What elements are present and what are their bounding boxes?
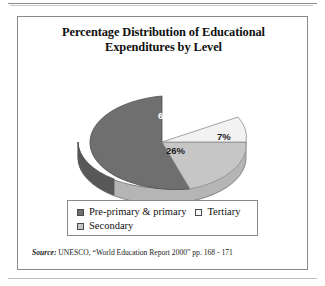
- pie-chart-svg: [18, 69, 307, 201]
- legend-item-secondary[interactable]: Secondary: [77, 220, 133, 232]
- pie-label-pre-primary-primary: 63%: [158, 110, 177, 121]
- legend-label-pre-primary-primary: Pre-primary & primary: [89, 206, 186, 218]
- source-note-text: UNESCO, “World Education Report 2000” pp…: [56, 248, 232, 257]
- pie-label-tertiary: 7%: [217, 131, 231, 142]
- page-bottom-rule: [8, 278, 317, 279]
- chart-title: Percentage Distribution of Educational E…: [28, 25, 299, 55]
- source-note: Source: UNESCO, “World Education Report …: [32, 248, 233, 257]
- legend-row: Secondary: [77, 219, 253, 233]
- chart-legend: Pre-primary & primary Tertiary Secondary: [67, 200, 258, 236]
- legend-rows: Pre-primary & primary Tertiary Secondary: [77, 205, 253, 233]
- legend-row: Pre-primary & primary Tertiary: [77, 205, 253, 219]
- legend-item-pre-primary-primary[interactable]: Pre-primary & primary: [77, 206, 186, 218]
- pie-chart: 63% 26% 7%: [18, 69, 307, 201]
- legend-label-tertiary: Tertiary: [207, 206, 240, 218]
- legend-swatch-icon-tertiary: [195, 209, 202, 216]
- legend-item-tertiary[interactable]: Tertiary: [195, 206, 240, 218]
- page-top-rule: [8, 3, 317, 4]
- legend-swatch-icon-secondary: [77, 223, 84, 230]
- legend-swatch-icon-pre-primary-primary: [77, 209, 84, 216]
- chart-frame: Percentage Distribution of Educational E…: [17, 16, 308, 270]
- source-note-prefix: Source:: [32, 248, 56, 257]
- legend-label-secondary: Secondary: [89, 220, 133, 232]
- page-top-rule-secondary: [10, 5, 313, 6]
- page-canvas: Percentage Distribution of Educational E…: [0, 0, 325, 286]
- pie-label-secondary: 26%: [166, 145, 185, 156]
